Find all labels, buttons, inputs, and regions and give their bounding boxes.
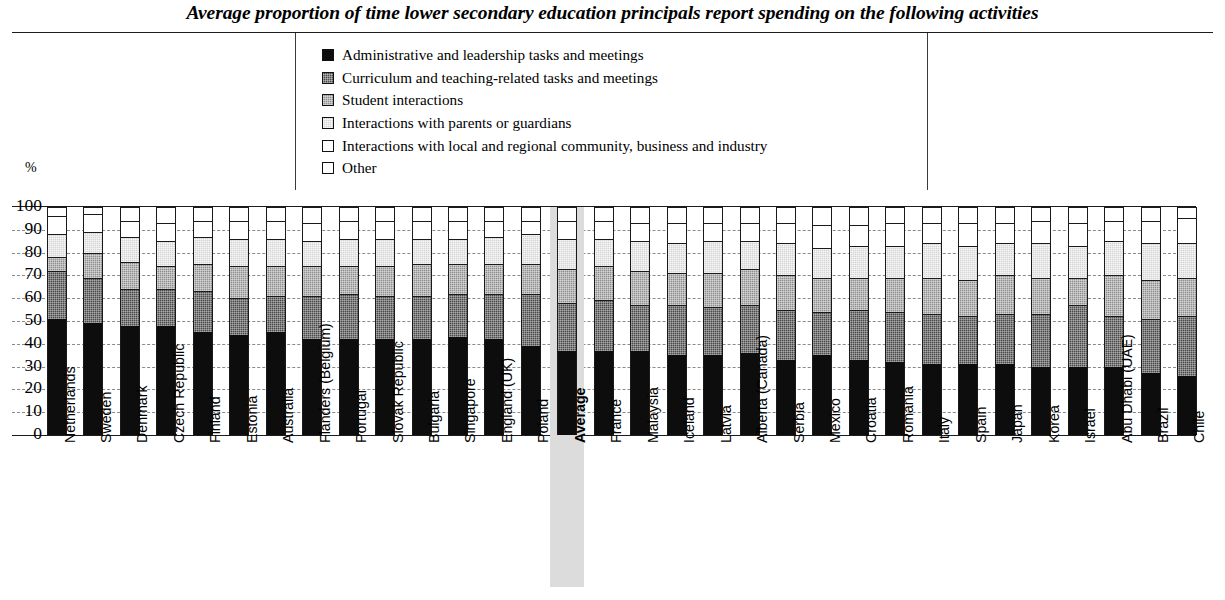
bar-segment[interactable]: [958, 223, 978, 246]
bar-segment[interactable]: [156, 207, 176, 223]
bar-segment[interactable]: [375, 296, 395, 339]
bar-segment[interactable]: [83, 232, 103, 253]
bar-segment[interactable]: [703, 241, 723, 273]
bar-segment[interactable]: [995, 275, 1015, 314]
bar-segment[interactable]: [229, 221, 249, 239]
stacked-bar[interactable]: [703, 207, 723, 435]
bar-segment[interactable]: [193, 264, 213, 291]
stacked-bar[interactable]: [1141, 207, 1161, 435]
bar-segment[interactable]: [630, 305, 650, 351]
bar-segment[interactable]: [47, 271, 67, 319]
bar-segment[interactable]: [1177, 243, 1197, 277]
bar-segment[interactable]: [1177, 207, 1197, 218]
bar-segment[interactable]: [339, 294, 359, 340]
bar-segment[interactable]: [630, 271, 650, 305]
bar-segment[interactable]: [266, 266, 286, 296]
bar-segment[interactable]: [812, 248, 832, 278]
bar-segment[interactable]: [1068, 207, 1088, 223]
bar-segment[interactable]: [557, 239, 577, 269]
bar-segment[interactable]: [703, 223, 723, 241]
bar-segment[interactable]: [1068, 305, 1088, 367]
bar-segment[interactable]: [47, 216, 67, 234]
bar-segment[interactable]: [1141, 243, 1161, 279]
bar-segment[interactable]: [1141, 319, 1161, 374]
bar-segment[interactable]: [412, 207, 432, 221]
bar-segment[interactable]: [266, 239, 286, 266]
bar-segment[interactable]: [339, 266, 359, 293]
bar-segment[interactable]: [83, 253, 103, 278]
bar-segment[interactable]: [1141, 221, 1161, 244]
bar-segment[interactable]: [594, 221, 614, 239]
bar-segment[interactable]: [1104, 221, 1124, 242]
bar-segment[interactable]: [484, 237, 504, 264]
bar-segment[interactable]: [339, 239, 359, 266]
bar-segment[interactable]: [958, 207, 978, 223]
bar-segment[interactable]: [776, 243, 796, 275]
bar-segment[interactable]: [83, 207, 103, 214]
bar-segment[interactable]: [995, 207, 1015, 223]
bar-segment[interactable]: [885, 223, 905, 246]
bar-segment[interactable]: [193, 237, 213, 264]
bar-segment[interactable]: [630, 223, 650, 241]
bar-segment[interactable]: [812, 225, 832, 248]
bar-segment[interactable]: [703, 273, 723, 307]
bar-segment[interactable]: [120, 262, 140, 289]
stacked-bar[interactable]: [958, 207, 978, 435]
bar-segment[interactable]: [83, 278, 103, 324]
bar-segment[interactable]: [448, 239, 468, 264]
bar-segment[interactable]: [958, 316, 978, 364]
bar-segment[interactable]: [1141, 280, 1161, 319]
bar-segment[interactable]: [1031, 243, 1051, 277]
bar-segment[interactable]: [776, 310, 796, 360]
bar-segment[interactable]: [302, 266, 322, 296]
bar-segment[interactable]: [1068, 278, 1088, 305]
bar-segment[interactable]: [302, 241, 322, 266]
bar-segment[interactable]: [995, 314, 1015, 364]
bar-segment[interactable]: [667, 243, 687, 273]
bar-segment[interactable]: [339, 207, 359, 221]
bar-segment[interactable]: [521, 234, 541, 264]
bar-segment[interactable]: [412, 264, 432, 296]
bar-segment[interactable]: [594, 266, 614, 300]
bar-segment[interactable]: [1068, 246, 1088, 278]
bar-segment[interactable]: [740, 223, 760, 241]
bar-segment[interactable]: [557, 221, 577, 239]
bar-segment[interactable]: [703, 307, 723, 355]
bar-segment[interactable]: [740, 241, 760, 268]
bar-segment[interactable]: [1177, 218, 1197, 243]
bar-segment[interactable]: [630, 241, 650, 271]
bar-segment[interactable]: [1068, 223, 1088, 246]
bar-segment[interactable]: [412, 239, 432, 264]
bar-segment[interactable]: [1104, 241, 1124, 275]
bar-segment[interactable]: [667, 273, 687, 305]
bar-segment[interactable]: [740, 207, 760, 223]
bar-segment[interactable]: [156, 223, 176, 241]
bar-segment[interactable]: [594, 207, 614, 221]
bar-segment[interactable]: [922, 223, 942, 244]
bar-segment[interactable]: [120, 221, 140, 237]
bar-segment[interactable]: [375, 207, 395, 221]
bar-segment[interactable]: [885, 278, 905, 312]
bar-segment[interactable]: [193, 291, 213, 332]
bar-segment[interactable]: [448, 221, 468, 239]
bar-segment[interactable]: [1031, 207, 1051, 221]
bar-segment[interactable]: [958, 246, 978, 280]
bar-segment[interactable]: [229, 239, 249, 266]
bar-segment[interactable]: [776, 275, 796, 309]
bar-segment[interactable]: [812, 312, 832, 355]
bar-segment[interactable]: [156, 266, 176, 289]
bar-segment[interactable]: [1104, 207, 1124, 221]
bar-segment[interactable]: [448, 294, 468, 337]
bar-segment[interactable]: [885, 246, 905, 278]
bar-segment[interactable]: [83, 214, 103, 232]
bar-segment[interactable]: [557, 303, 577, 351]
bar-segment[interactable]: [156, 289, 176, 325]
bar-segment[interactable]: [958, 280, 978, 316]
bar-segment[interactable]: [412, 296, 432, 339]
bar-segment[interactable]: [448, 207, 468, 221]
stacked-bar[interactable]: [1177, 207, 1197, 435]
bar-segment[interactable]: [412, 221, 432, 239]
bar-segment[interactable]: [594, 300, 614, 350]
stacked-bar[interactable]: [1031, 207, 1051, 435]
bar-segment[interactable]: [339, 221, 359, 239]
